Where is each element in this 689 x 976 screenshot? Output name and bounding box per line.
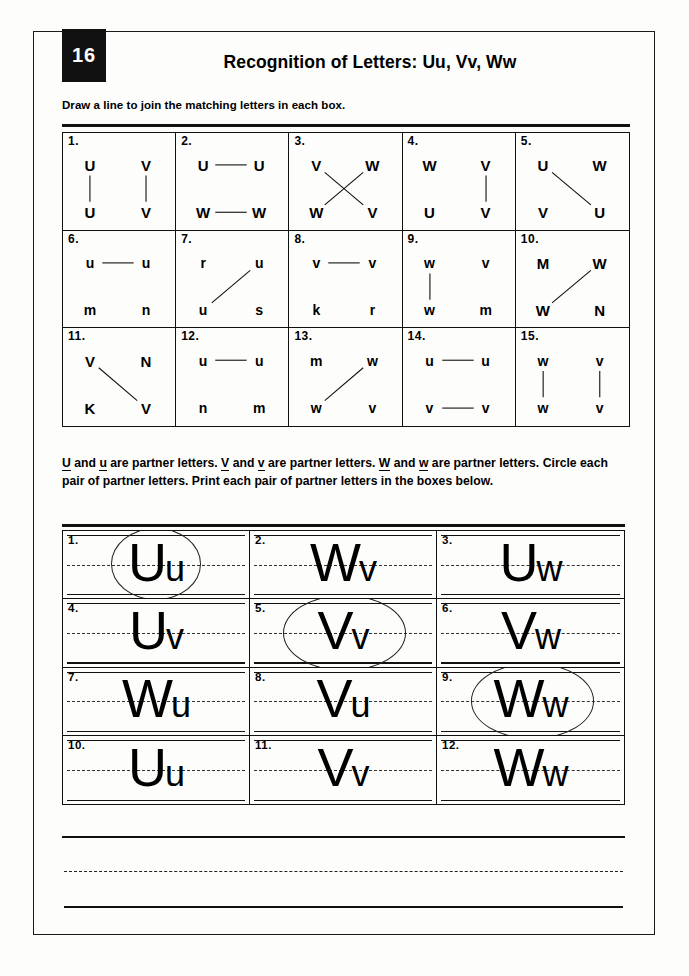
partner-letters-instruction: U and u are partner letters. V and v are… bbox=[62, 455, 622, 490]
matching-connector-lines bbox=[63, 133, 175, 230]
writing-box-number: 7. bbox=[68, 671, 79, 683]
letter-pair-lowercase: u bbox=[171, 678, 190, 732]
writing-box[interactable]: 1.Uu bbox=[63, 531, 250, 599]
writing-box[interactable]: 5.Vv bbox=[250, 599, 437, 667]
underlined-letter-W-cap: W bbox=[379, 456, 391, 471]
matching-box[interactable]: 2.UUWW bbox=[176, 133, 289, 231]
matching-connector-line bbox=[212, 270, 250, 302]
matching-box[interactable]: 15.wvwv bbox=[516, 328, 629, 426]
page-title: Recognition of Letters: Uu, Vv, Ww bbox=[120, 52, 620, 73]
matching-box[interactable]: 3.VWWV bbox=[289, 133, 402, 231]
blank-practice-lines bbox=[62, 836, 625, 908]
matching-connector-lines bbox=[403, 328, 515, 426]
writing-practice-grid: 1.Uu2.Wv3.Uw4.Uv5.Vv6.Vw7.Wu8.Vu9.Ww10.U… bbox=[62, 524, 625, 805]
writing-box-number: 10. bbox=[68, 739, 86, 751]
letter-pair-lowercase: v bbox=[166, 609, 183, 663]
letter-pair-lowercase: v bbox=[352, 609, 369, 663]
letter-pair: Uv bbox=[129, 602, 183, 663]
letter-pair-lowercase: u bbox=[351, 678, 370, 732]
matching-box[interactable]: 8.vvkr bbox=[289, 231, 402, 329]
letter-pair: Uu bbox=[128, 534, 184, 595]
letter-pair-uppercase: W bbox=[494, 739, 543, 793]
matching-connector-lines bbox=[289, 133, 401, 230]
letter-pair-lowercase: v bbox=[359, 541, 376, 595]
letter-pair-uppercase: V bbox=[317, 602, 351, 656]
matching-box[interactable]: 4.WVUV bbox=[403, 133, 516, 231]
letter-pair-lowercase: u bbox=[165, 746, 184, 800]
underlined-letter-V-cap: V bbox=[221, 456, 229, 471]
writing-box-number: 4. bbox=[68, 602, 79, 614]
matching-box[interactable]: 6.uumn bbox=[63, 231, 176, 329]
matching-box[interactable]: 11.VNKV bbox=[63, 328, 176, 426]
matching-letters-grid: 1.UVUV2.UUWW3.VWWV4.WVUV5.UWVU6.uumn7.ru… bbox=[62, 124, 630, 427]
matching-connector-lines bbox=[516, 133, 629, 230]
matching-connector-line bbox=[325, 368, 363, 401]
matching-connector-line bbox=[552, 270, 591, 302]
letter-pair-uppercase: V bbox=[317, 739, 351, 793]
letter-pair-lowercase: w bbox=[535, 609, 560, 663]
writing-box[interactable]: 3.Uw bbox=[437, 531, 624, 599]
matching-connector-lines bbox=[176, 328, 288, 426]
writing-box[interactable]: 4.Uv bbox=[63, 599, 250, 667]
matching-connector-lines bbox=[403, 133, 515, 230]
letter-pair-lowercase: w bbox=[542, 746, 567, 800]
matching-connector-lines bbox=[63, 231, 175, 328]
writing-box[interactable]: 9.Ww bbox=[437, 668, 624, 736]
letter-pair-uppercase: W bbox=[494, 671, 543, 725]
matching-box[interactable]: 12.uunm bbox=[176, 328, 289, 426]
underlined-letter-U-cap: U bbox=[62, 456, 71, 471]
matching-connector-lines bbox=[289, 328, 401, 426]
letter-pair: Uw bbox=[500, 534, 562, 595]
page-number-text: 16 bbox=[72, 44, 96, 67]
letter-pair-uppercase: U bbox=[128, 739, 165, 793]
matching-grid-body: 1.UVUV2.UUWW3.VWWV4.WVUV5.UWVU6.uumn7.ru… bbox=[62, 132, 630, 427]
letter-pair-uppercase: W bbox=[310, 534, 359, 588]
letter-pair-lowercase: u bbox=[165, 541, 184, 595]
writing-box[interactable]: 7.Wu bbox=[63, 668, 250, 736]
letter-pair: Vw bbox=[501, 602, 560, 663]
letter-pair-uppercase: V bbox=[501, 602, 535, 656]
matching-connector-line bbox=[99, 368, 137, 401]
writing-box[interactable]: 8.Vu bbox=[250, 668, 437, 736]
writing-box[interactable]: 2.Wv bbox=[250, 531, 437, 599]
writing-box[interactable]: 11.Vv bbox=[250, 736, 437, 804]
matching-connector-lines bbox=[516, 328, 629, 426]
writing-box-number: 2. bbox=[255, 534, 266, 546]
writing-box-number: 3. bbox=[442, 534, 453, 546]
matching-connector-lines bbox=[176, 231, 288, 328]
letter-pair-lowercase: w bbox=[542, 678, 567, 732]
letter-pair: Vu bbox=[316, 671, 369, 732]
matching-box[interactable]: 10.MWWN bbox=[516, 231, 629, 329]
matching-box[interactable]: 1.UVUV bbox=[63, 133, 176, 231]
writing-box[interactable]: 12.Ww bbox=[437, 736, 624, 804]
writing-box[interactable]: 6.Vw bbox=[437, 599, 624, 667]
letter-pair: Vv bbox=[317, 602, 368, 663]
matching-box[interactable]: 13.mwwv bbox=[289, 328, 402, 426]
matching-box[interactable]: 5.UWVU bbox=[516, 133, 629, 231]
matching-connector-line bbox=[552, 172, 591, 204]
matching-grid-top-rule bbox=[62, 124, 630, 127]
letter-pair-uppercase: U bbox=[128, 534, 165, 588]
matching-box[interactable]: 7.ruus bbox=[176, 231, 289, 329]
matching-instruction: Draw a line to join the matching letters… bbox=[62, 99, 345, 111]
matching-box[interactable]: 14.uuvv bbox=[403, 328, 516, 426]
underlined-letter-w-low: w bbox=[419, 456, 429, 471]
letter-pair-uppercase: U bbox=[129, 602, 166, 656]
letter-pair: Wv bbox=[310, 534, 376, 595]
page-number-tab: 16 bbox=[62, 29, 106, 82]
matching-connector-lines bbox=[176, 133, 288, 230]
letter-pair: Ww bbox=[494, 739, 568, 800]
letter-pair: Wu bbox=[122, 671, 190, 732]
writing-box-number: 9. bbox=[442, 671, 453, 683]
writing-box[interactable]: 10.Uu bbox=[63, 736, 250, 804]
letter-pair-lowercase: w bbox=[537, 541, 562, 595]
letter-pair-uppercase: V bbox=[316, 671, 350, 725]
practice-line-middle-dashed bbox=[64, 871, 623, 872]
practice-line-bottom bbox=[64, 906, 623, 908]
underlined-letter-v-low: v bbox=[258, 456, 265, 471]
writing-box-number: 12. bbox=[442, 739, 460, 751]
writing-grid-body: 1.Uu2.Wv3.Uw4.Uv5.Vv6.Vw7.Wu8.Vu9.Ww10.U… bbox=[62, 530, 625, 805]
writing-box-number: 11. bbox=[255, 739, 272, 751]
matching-box[interactable]: 9.wvwm bbox=[403, 231, 516, 329]
matching-connector-lines bbox=[63, 328, 175, 426]
